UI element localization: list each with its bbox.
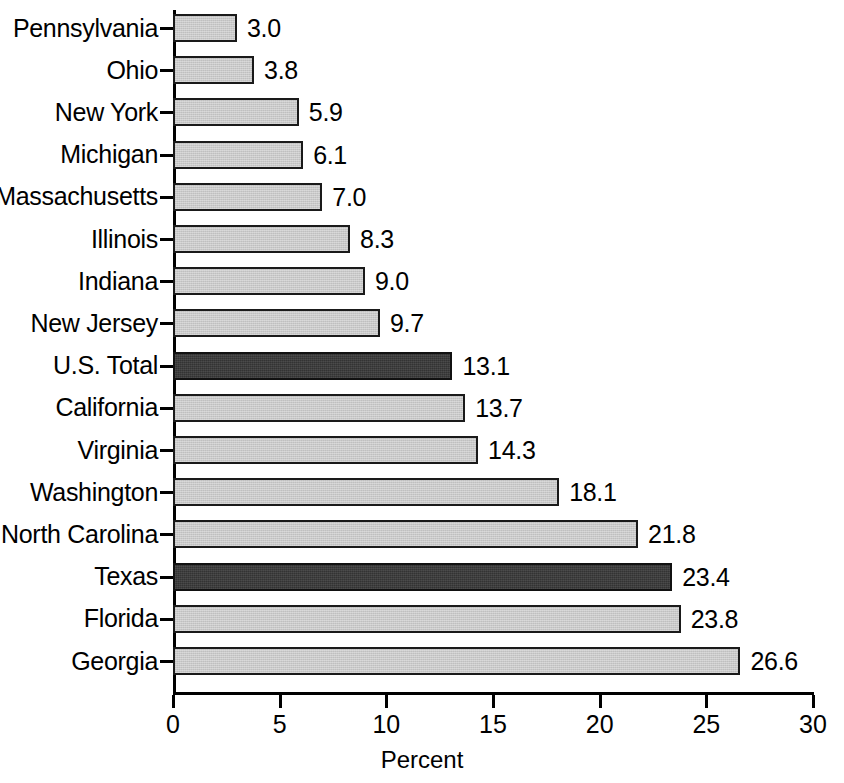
- bar[interactable]: [173, 520, 638, 548]
- bar-row: 5.9: [173, 98, 813, 126]
- x-axis-title: Percent: [0, 748, 844, 772]
- x-axis-tick: [812, 695, 815, 708]
- bar-value-label: 6.1: [313, 142, 347, 167]
- bar-row: 13.1: [173, 352, 813, 380]
- bar-value-label: 21.8: [648, 522, 695, 547]
- category-label-text: Illinois: [91, 227, 158, 252]
- y-axis-tick: [160, 618, 173, 621]
- category-label-text: Ohio: [106, 58, 158, 83]
- bar-row: 18.1: [173, 478, 813, 506]
- category-label-pennsylvania: Pennsylvania: [0, 14, 158, 42]
- y-axis-tick: [160, 238, 173, 241]
- bar-row: 23.4: [173, 563, 813, 591]
- y-axis-tick: [160, 533, 173, 536]
- y-axis-tick: [160, 111, 173, 114]
- category-label-massachusetts: Massachusetts: [0, 183, 158, 211]
- category-label-text: Michigan: [60, 142, 158, 167]
- bar[interactable]: [173, 14, 237, 42]
- x-axis-tick-label: 20: [586, 712, 614, 737]
- category-label-text: Massachusetts: [0, 184, 158, 209]
- x-axis-tick-label: 0: [166, 712, 180, 737]
- bar-row: 7.0: [173, 183, 813, 211]
- category-label-texas: Texas: [0, 563, 158, 591]
- bar-row: 3.0: [173, 14, 813, 42]
- bar[interactable]: [173, 98, 299, 126]
- y-axis-tick: [160, 154, 173, 157]
- bar-value-label: 13.1: [462, 353, 509, 378]
- bar[interactable]: [173, 309, 380, 337]
- bar-value-label: 9.0: [375, 269, 409, 294]
- bar-row: 23.8: [173, 605, 813, 633]
- y-axis-tick: [160, 280, 173, 283]
- y-axis-tick: [160, 69, 173, 72]
- bar[interactable]: [173, 352, 452, 380]
- x-axis-tick: [279, 695, 282, 708]
- bar[interactable]: [173, 183, 322, 211]
- bar[interactable]: [173, 267, 365, 295]
- x-axis-tick-label: 15: [479, 712, 507, 737]
- bar[interactable]: [173, 436, 478, 464]
- bar-value-label: 26.6: [750, 649, 797, 674]
- category-label-california: California: [0, 394, 158, 422]
- y-axis-tick: [160, 660, 173, 663]
- category-label-ohio: Ohio: [0, 56, 158, 84]
- bar-row: 9.0: [173, 267, 813, 295]
- y-axis-tick: [160, 27, 173, 30]
- bar[interactable]: [173, 647, 740, 675]
- y-axis-tick: [160, 322, 173, 325]
- category-label-u-s-total: U.S. Total: [0, 352, 158, 380]
- category-label-text: Florida: [84, 606, 158, 631]
- bar-row: 13.7: [173, 394, 813, 422]
- y-axis-tick: [160, 491, 173, 494]
- category-label-florida: Florida: [0, 605, 158, 633]
- bar-value-label: 8.3: [360, 227, 394, 252]
- category-label-text: North Carolina: [1, 522, 158, 547]
- bar-row: 8.3: [173, 225, 813, 253]
- x-axis-tick: [492, 695, 495, 708]
- bar[interactable]: [173, 56, 254, 84]
- category-label-georgia: Georgia: [0, 647, 158, 675]
- category-label-text: Washington: [30, 480, 158, 505]
- bar[interactable]: [173, 563, 672, 591]
- x-axis-tick-label: 10: [372, 712, 400, 737]
- bar[interactable]: [173, 478, 559, 506]
- bar-row: 21.8: [173, 520, 813, 548]
- category-label-text: Georgia: [71, 649, 158, 674]
- category-label-washington: Washington: [0, 478, 158, 506]
- category-label-text: New Jersey: [30, 311, 158, 336]
- category-label-text: U.S. Total: [53, 353, 158, 378]
- bar-value-label: 3.8: [264, 58, 298, 83]
- bar-value-label: 13.7: [475, 395, 522, 420]
- bar[interactable]: [173, 141, 303, 169]
- bar-value-label: 23.4: [682, 564, 729, 589]
- bar-value-label: 3.0: [247, 16, 281, 41]
- bar-row: 9.7: [173, 309, 813, 337]
- plot-area: 3.03.85.96.17.08.39.09.713.113.714.318.1…: [173, 10, 813, 692]
- x-axis-tick-label: 25: [692, 712, 720, 737]
- x-axis-tick: [385, 695, 388, 708]
- y-axis-tick: [160, 407, 173, 410]
- bar[interactable]: [173, 394, 465, 422]
- category-label-illinois: Illinois: [0, 225, 158, 253]
- x-axis-tick: [599, 695, 602, 708]
- category-label-text: Indiana: [78, 269, 158, 294]
- bar-row: 26.6: [173, 647, 813, 675]
- bar-value-label: 7.0: [332, 184, 366, 209]
- bar-chart: 3.03.85.96.17.08.39.09.713.113.714.318.1…: [0, 0, 844, 783]
- y-axis-tick: [160, 365, 173, 368]
- bar-row: 14.3: [173, 436, 813, 464]
- bar-value-label: 5.9: [309, 100, 343, 125]
- y-axis-tick: [160, 449, 173, 452]
- y-axis-tick: [160, 576, 173, 579]
- bar-row: 3.8: [173, 56, 813, 84]
- y-axis-tick: [160, 196, 173, 199]
- bar[interactable]: [173, 605, 681, 633]
- bar[interactable]: [173, 225, 350, 253]
- x-axis-tick: [705, 695, 708, 708]
- category-label-north-carolina: North Carolina: [0, 520, 158, 548]
- category-label-text: California: [55, 395, 158, 420]
- bar-value-label: 9.7: [390, 311, 424, 336]
- category-label-virginia: Virginia: [0, 436, 158, 464]
- category-label-text: New York: [55, 100, 158, 125]
- category-label-new-york: New York: [0, 98, 158, 126]
